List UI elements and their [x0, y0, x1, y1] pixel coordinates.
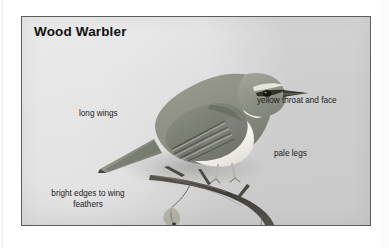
illustration-plate: Wood Warbler long wings yellow throat an…	[0, 0, 389, 248]
annotation-pale-legs: pale legs	[274, 149, 307, 160]
annotation-bright-edges-to-wing-feathers: bright edges to wing feathers	[44, 189, 132, 211]
annotation-yellow-throat-and-face: yellow throat and face	[257, 96, 337, 107]
plate-panel: Wood Warbler long wings yellow throat an…	[21, 16, 371, 226]
scan-edge-left	[0, 0, 4, 248]
annotation-long-wings: long wings	[79, 109, 118, 120]
scan-edge-right	[381, 0, 389, 248]
page-title: Wood Warbler	[34, 24, 127, 39]
